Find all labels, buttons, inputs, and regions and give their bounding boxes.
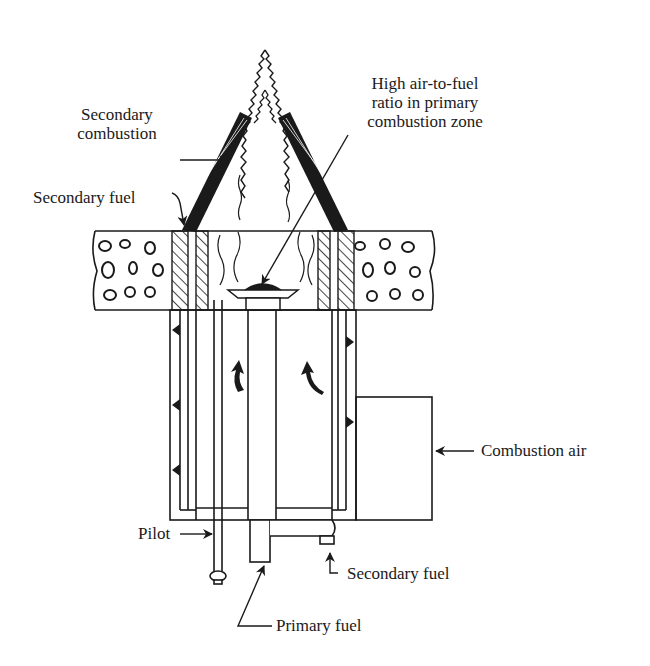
primary-flame-wisps — [218, 175, 314, 285]
label-secondary-fuel-top: Secondary fuel — [33, 188, 135, 207]
air-flow-arrows — [231, 360, 324, 395]
secondary-fuel-bottom-pointer — [330, 553, 338, 573]
bottom-piping — [210, 520, 335, 584]
label-combustion-air: Combustion air — [481, 441, 586, 460]
label-high-air-ratio: High air-to-fuel ratio in primary combus… — [350, 74, 500, 131]
label-pilot: Pilot — [138, 524, 170, 543]
secondary-flow-arrows — [172, 324, 354, 476]
secondary-fuel-top-pointer — [172, 193, 184, 225]
label-line: combustion — [62, 124, 172, 143]
primary-fuel-pointer — [238, 566, 272, 626]
label-line: combustion zone — [350, 112, 500, 131]
label-line: ratio in primary — [350, 93, 500, 112]
inner-flame-envelope — [254, 90, 276, 123]
label-line: Secondary — [62, 105, 172, 124]
secondary-combustion-streaks — [182, 112, 348, 232]
burner-plenum — [170, 300, 432, 520]
label-primary-fuel: Primary fuel — [276, 616, 361, 635]
label-secondary-fuel-bottom: Secondary fuel — [347, 564, 449, 583]
primary-burner-tip — [228, 284, 298, 310]
burner-diagram — [0, 0, 650, 666]
label-secondary-combustion: Secondary combustion — [62, 105, 172, 143]
label-line: High air-to-fuel — [350, 74, 500, 93]
